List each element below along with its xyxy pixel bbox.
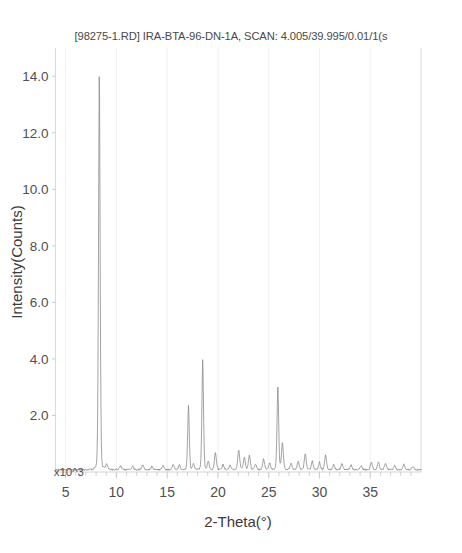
plot-frame xyxy=(56,48,422,472)
x-axis-title: 2-Theta(°) xyxy=(204,513,272,530)
xrd-diffractogram: [98275-1.RD] IRA-BTA-96-DN-1A, SCAN: 4.0… xyxy=(0,0,462,553)
x-tick-label: 15 xyxy=(159,484,175,500)
x-tick-label: 25 xyxy=(261,484,277,500)
tick-marks xyxy=(52,76,411,478)
x-tick-label: 20 xyxy=(210,484,226,500)
scan-curve xyxy=(56,77,421,471)
y-tick-label: 14.0 xyxy=(22,69,48,84)
y-tick-label: 12.0 xyxy=(22,126,48,141)
x-tick-label: 30 xyxy=(312,484,328,500)
y-axis-title: Intensity(Counts) xyxy=(8,205,25,318)
chart-canvas: 51015202530352.04.06.08.010.012.014.0 2-… xyxy=(0,0,462,553)
y-tick-label: 4.0 xyxy=(30,352,49,367)
y-axis-exponent-label: x10^3 xyxy=(54,466,84,478)
x-tick-label: 35 xyxy=(362,484,378,500)
y-tick-label: 6.0 xyxy=(30,295,49,310)
y-tick-label: 8.0 xyxy=(30,239,49,254)
diffraction-trace xyxy=(56,77,421,471)
grid-layer xyxy=(66,48,371,472)
x-tick-label: 5 xyxy=(62,484,70,500)
y-tick-label: 2.0 xyxy=(30,408,49,423)
y-tick-label: 10.0 xyxy=(22,182,48,197)
x-tick-label: 10 xyxy=(109,484,125,500)
axis-tick-labels: 51015202530352.04.06.08.010.012.014.0 xyxy=(22,69,378,500)
